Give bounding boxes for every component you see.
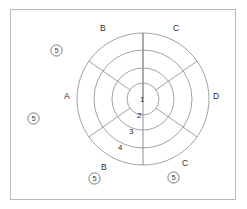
ring-label-4: 4 bbox=[118, 143, 122, 152]
ring-label-3: 3 bbox=[129, 127, 133, 136]
spoke-lower-left bbox=[89, 108, 130, 137]
sector-label-top-right: C bbox=[173, 24, 179, 33]
callout-label-lower-right: 5 bbox=[167, 171, 180, 184]
sector-label-bottom-left: B bbox=[101, 163, 107, 172]
callout-label-mid-left: 5 bbox=[27, 112, 40, 125]
figure-root: 1234 BCADBC 5555 bbox=[0, 0, 247, 209]
sector-label-left: A bbox=[64, 92, 70, 101]
sector-label-top-left: B bbox=[100, 24, 106, 33]
sector-label-right: D bbox=[213, 92, 219, 101]
concentric-zone-diagram bbox=[0, 0, 247, 209]
spoke-lower-right bbox=[156, 108, 197, 137]
spoke-upper-left bbox=[89, 61, 130, 90]
ring-label-2: 2 bbox=[137, 111, 141, 120]
spoke-upper-right bbox=[156, 61, 197, 90]
sector-label-bottom-right: C bbox=[182, 159, 188, 168]
callout-label-upper-left: 5 bbox=[50, 44, 63, 57]
callout-label-lower-left: 5 bbox=[88, 172, 101, 185]
ring-label-1: 1 bbox=[140, 95, 144, 104]
